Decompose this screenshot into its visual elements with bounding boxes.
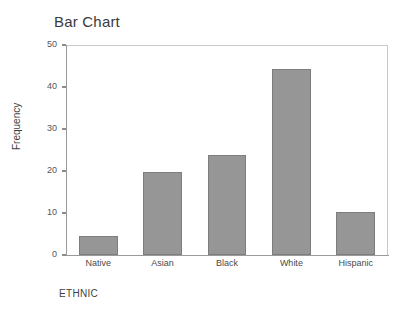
y-axis-tick-label: 40 [47, 81, 57, 91]
bar [79, 236, 118, 255]
y-axis-tick-label: 20 [47, 165, 57, 175]
x-axis-tick-label: Black [195, 258, 259, 268]
x-axis-tick-labels: NativeAsianBlackWhiteHispanic [66, 258, 388, 274]
x-axis-line [66, 255, 389, 256]
bars-layer [66, 45, 388, 255]
chart-title: Bar Chart [54, 13, 120, 30]
bar-chart-figure: Bar Chart 01020304050 Frequency NativeAs… [0, 0, 406, 321]
x-axis-tick-label: White [259, 258, 323, 268]
y-axis-tick-label: 0 [52, 249, 57, 259]
bar [336, 212, 375, 255]
bar [272, 69, 311, 255]
x-axis-tick-label: Asian [130, 258, 194, 268]
y-axis-tick-label: 30 [47, 123, 57, 133]
x-axis-tick-label: Hispanic [324, 258, 388, 268]
bar [208, 155, 247, 255]
y-axis-tick-label: 10 [47, 207, 57, 217]
y-axis-title: Frequency [11, 103, 22, 150]
y-axis-tick-label: 50 [47, 39, 57, 49]
x-axis-tick-label: Native [66, 258, 130, 268]
bar [143, 172, 182, 255]
x-axis-title: ETHNIC [59, 288, 98, 299]
